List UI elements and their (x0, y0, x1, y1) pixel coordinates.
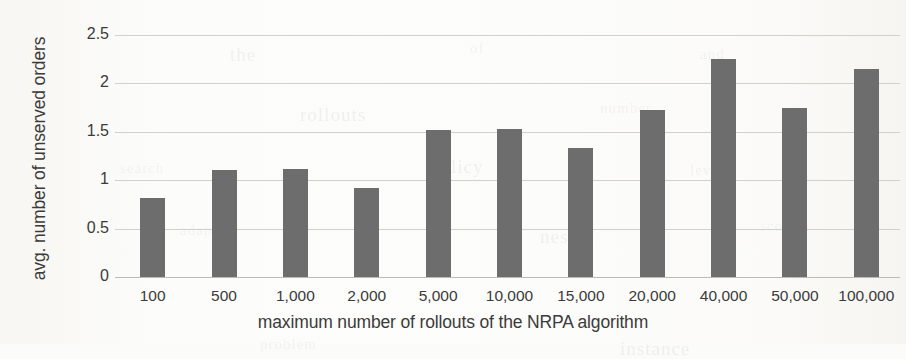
bar (283, 169, 308, 277)
bar (354, 188, 379, 277)
y-axis-tick-label: 1 (57, 170, 109, 188)
bar (568, 148, 593, 277)
bar (640, 110, 665, 277)
scan-artifact-text: instance (620, 338, 690, 359)
bar (140, 198, 165, 277)
bar (782, 108, 807, 277)
scan-artifact-text: problem (260, 336, 317, 353)
bar (426, 130, 451, 277)
y-axis-tick-label: 0.5 (57, 219, 109, 237)
bar (711, 59, 736, 277)
bar (497, 129, 522, 277)
gridline (115, 35, 900, 36)
gridline (115, 277, 900, 278)
gridline (115, 83, 900, 84)
bar (212, 170, 237, 277)
plot-area: 00.511.522.5 1005001,0002,0005,00010,000… (115, 35, 900, 277)
y-axis-tick-label: 0 (57, 267, 109, 285)
x-axis-tick-label: 100,000 (821, 287, 906, 305)
y-axis-tick-label: 2.5 (57, 25, 109, 43)
y-axis-tick-label: 2 (57, 73, 109, 91)
y-axis-tick-label: 1.5 (57, 122, 109, 140)
y-axis-title: avg. number of unserved orders (29, 24, 50, 294)
bar (854, 69, 879, 277)
x-axis-title: maximum number of rollouts of the NRPA a… (0, 312, 906, 333)
